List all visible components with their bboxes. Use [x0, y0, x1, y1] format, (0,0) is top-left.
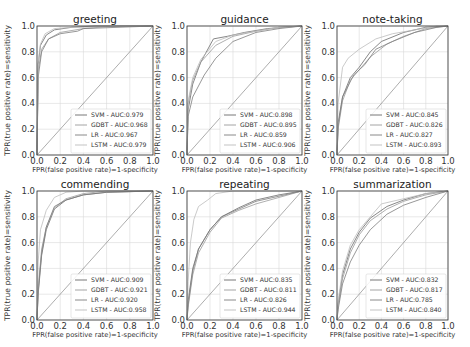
x-axis-label: FPR(false positive rate)=1-specificity — [182, 331, 308, 339]
x-tick-label: 0.8 — [419, 321, 433, 331]
y-axis-label: TPR(true positive rate)=sensitivity — [153, 24, 162, 157]
x-tick-label: 0.2 — [53, 321, 67, 331]
y-tick-label: 0.0 — [21, 315, 35, 325]
y-axis-label: TPR(true positive rate)=sensitivity — [153, 189, 162, 322]
y-tick-label: 0.2 — [321, 289, 335, 299]
legend: SVM - AUC:0.909GDBT - AUC:0.921LR - AUC:… — [71, 274, 151, 318]
x-axis-label: FPR(false positive rate)=1-specificity — [330, 166, 456, 174]
y-tick-label: 0.6 — [321, 238, 335, 248]
panel-title: commending — [61, 178, 130, 190]
panel-title: guidance — [220, 13, 268, 25]
y-tick-label: 0.4 — [21, 263, 35, 273]
y-tick-label: 0.4 — [321, 263, 335, 273]
legend-entry: SVM - AUC:0.979 — [91, 111, 144, 118]
panel-title: summarization — [353, 178, 431, 190]
x-tick-label: 0.2 — [352, 156, 366, 166]
y-tick-label: 0.4 — [171, 263, 185, 273]
y-tick-label: 0.8 — [21, 47, 35, 57]
legend: SVM - AUC:0.832GDBT - AUC:0.817LR - AUC:… — [366, 274, 446, 318]
x-tick-label: 0.2 — [203, 156, 217, 166]
y-tick-label: 0.0 — [321, 150, 335, 160]
legend-entry: GDBT - AUC:0.895 — [240, 121, 297, 128]
y-tick-label: 0.4 — [321, 98, 335, 108]
y-axis-label: TPR(true positive rate)=sensitivity — [3, 24, 12, 157]
x-tick-label: 0.2 — [352, 321, 366, 331]
x-tick-label: 1.0 — [295, 156, 309, 166]
y-tick-label: 0.6 — [321, 73, 335, 83]
legend-entry: SVM - AUC:0.898 — [240, 111, 293, 118]
y-tick-label: 1.0 — [171, 186, 185, 196]
x-tick-label: 0.8 — [123, 321, 137, 331]
y-tick-label: 0.8 — [321, 47, 335, 57]
legend-entry: LR - AUC:0.967 — [91, 131, 138, 138]
x-tick-label: 0.6 — [100, 321, 114, 331]
x-tick-label: 0.4 — [77, 156, 91, 166]
y-tick-label: 0.6 — [21, 73, 35, 83]
y-tick-label: 0.2 — [171, 124, 185, 134]
x-tick-label: 0.4 — [226, 156, 240, 166]
legend-entry: LSTM - AUC:0.840 — [386, 306, 442, 313]
y-tick-label: 1.0 — [171, 21, 185, 31]
legend-entry: LSTM - AUC:0.979 — [91, 141, 147, 148]
panel-title: repeating — [219, 178, 269, 190]
y-tick-label: 0.2 — [321, 124, 335, 134]
x-tick-label: 0.6 — [397, 321, 411, 331]
x-tick-label: 1.0 — [295, 321, 309, 331]
legend-entry: LSTM - AUC:0.906 — [240, 141, 296, 148]
x-tick-label: 0.2 — [203, 321, 217, 331]
y-tick-label: 0.2 — [21, 124, 35, 134]
x-tick-label: 0.4 — [375, 321, 389, 331]
x-tick-label: 1.0 — [441, 156, 455, 166]
x-tick-label: 0.8 — [419, 156, 433, 166]
y-tick-label: 1.0 — [21, 186, 35, 196]
legend-entry: LSTM - AUC:0.944 — [240, 306, 296, 313]
roc-panel-summarization: summarization0.00.20.40.60.81.00.00.20.4… — [303, 178, 455, 339]
legend-entry: SVM - AUC:0.832 — [386, 276, 439, 283]
y-axis-label: TPR(true positive rate)=sensitivity — [303, 189, 312, 322]
y-tick-label: 0.0 — [171, 315, 185, 325]
y-axis-label: TPR(true positive rate)=sensitivity — [303, 24, 312, 157]
legend-entry: LR - AUC:0.826 — [240, 296, 287, 303]
x-tick-label: 0.6 — [249, 321, 263, 331]
y-tick-label: 0.4 — [171, 98, 185, 108]
legend-entry: GDBT - AUC:0.817 — [386, 286, 443, 293]
x-tick-label: 0.4 — [375, 156, 389, 166]
roc-panel-guidance: guidance0.00.20.40.60.81.00.00.20.40.60.… — [153, 13, 309, 174]
x-axis-label: FPR(false positive rate)=1-specificity — [182, 166, 308, 174]
y-tick-label: 0.0 — [321, 315, 335, 325]
y-tick-label: 0.8 — [171, 47, 185, 57]
x-axis-label: FPR(false positive rate)=1-specificity — [330, 331, 456, 339]
y-tick-label: 0.2 — [171, 289, 185, 299]
y-tick-label: 0.8 — [171, 212, 185, 222]
y-tick-label: 0.8 — [21, 212, 35, 222]
legend-entry: SVM - AUC:0.835 — [240, 276, 293, 283]
x-tick-label: 0.6 — [397, 156, 411, 166]
y-tick-label: 1.0 — [321, 186, 335, 196]
roc-panel-note-taking: note-taking0.00.20.40.60.81.00.00.20.40.… — [303, 13, 455, 174]
legend-entry: GDBT - AUC:0.968 — [91, 121, 148, 128]
x-tick-label: 0.8 — [272, 321, 286, 331]
legend-entry: LR - AUC:0.920 — [91, 296, 138, 303]
y-tick-label: 0.6 — [21, 238, 35, 248]
legend: SVM - AUC:0.835GDBT - AUC:0.811LR - AUC:… — [220, 274, 300, 318]
legend-entry: LR - AUC:0.827 — [386, 131, 433, 138]
y-tick-label: 0.0 — [171, 150, 185, 160]
roc-panel-commending: commending0.00.20.40.60.81.00.00.20.40.6… — [3, 178, 160, 339]
x-tick-label: 0.6 — [249, 156, 263, 166]
panel-title: note-taking — [362, 13, 422, 25]
legend-entry: LR - AUC:0.859 — [240, 131, 287, 138]
panel-title: greeting — [73, 13, 117, 25]
legend-entry: GDBT - AUC:0.811 — [240, 286, 297, 293]
y-tick-label: 0.4 — [21, 98, 35, 108]
x-tick-label: 0.8 — [123, 156, 137, 166]
legend: SVM - AUC:0.979GDBT - AUC:0.968LR - AUC:… — [71, 109, 151, 153]
x-tick-label: 0.4 — [77, 321, 91, 331]
legend-entry: LR - AUC:0.785 — [386, 296, 433, 303]
legend-entry: GDBT - AUC:0.826 — [386, 121, 443, 128]
x-axis-label: FPR(false positive rate)=1-specificity — [32, 166, 158, 174]
roc-chart-grid: greeting0.00.20.40.60.81.00.00.20.40.60.… — [0, 0, 470, 347]
y-tick-label: 0.2 — [21, 289, 35, 299]
legend-entry: GDBT - AUC:0.921 — [91, 286, 148, 293]
x-tick-label: 0.6 — [100, 156, 114, 166]
legend: SVM - AUC:0.845GDBT - AUC:0.826LR - AUC:… — [366, 109, 446, 153]
